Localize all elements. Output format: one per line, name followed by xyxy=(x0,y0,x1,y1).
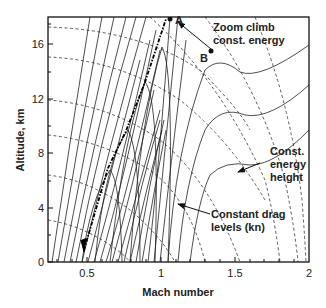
drag-levels-line2: levels (kn) xyxy=(211,221,265,233)
x-tick-0-5: 0.5 xyxy=(79,267,94,279)
y-tick-16: 16 xyxy=(32,38,44,50)
energy-height-curves xyxy=(48,17,306,262)
chart: 0 4 8 12 16 0.5 1 1.5 2 Mach number Alti… xyxy=(0,0,326,308)
point-b-label: B xyxy=(200,52,208,64)
annotation-energy-height: Const. energy height xyxy=(270,145,307,183)
y-tick-4: 4 xyxy=(38,202,44,214)
annotation-zoom-climb: Zoom climb const. energy xyxy=(213,21,285,46)
x-tick-1-5: 1.5 xyxy=(227,267,242,279)
annotation-drag-levels: Constant drag levels (kn) xyxy=(211,208,286,233)
x-axis-ticks xyxy=(57,257,294,262)
x-tick-1: 1 xyxy=(158,267,164,279)
y-tick-labels: 0 4 8 12 16 xyxy=(32,38,44,268)
point-b-marker xyxy=(209,49,214,54)
y-axis-title: Altitude, km xyxy=(14,108,26,171)
drag-contours-vertical xyxy=(52,17,186,262)
y-tick-8: 8 xyxy=(38,147,44,159)
energy-height-line3: height xyxy=(270,171,303,183)
x-axis-title: Mach number xyxy=(142,286,214,298)
y-axis-ticks xyxy=(48,24,53,262)
y-tick-12: 12 xyxy=(32,93,44,105)
plot-area xyxy=(48,17,309,263)
zoom-climb-line2: const. energy xyxy=(213,34,285,46)
drag-levels-line1: Constant drag xyxy=(211,208,286,220)
zoom-climb-line1: Zoom climb xyxy=(213,21,275,33)
energy-height-line1: Const. xyxy=(270,145,304,157)
point-a-label: A xyxy=(175,14,183,26)
y-tick-0: 0 xyxy=(38,256,44,268)
energy-height-line2: energy xyxy=(270,158,307,170)
annotation-leaders xyxy=(178,163,260,214)
x-tick-labels: 0.5 1 1.5 2 xyxy=(79,267,312,279)
x-tick-2: 2 xyxy=(306,267,312,279)
